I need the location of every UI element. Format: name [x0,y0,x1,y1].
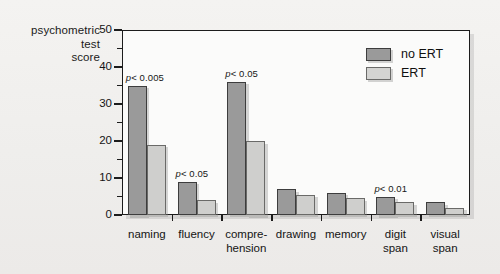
y-tick-label-10: 10 [92,171,112,183]
x-tick-mark-1 [172,215,174,221]
bar-fluency-ert [197,200,216,215]
legend-label-ert: ERT [401,65,426,82]
x-axis-label-memory: memory [321,228,371,242]
bar-fluency-no-ert [178,182,197,215]
legend: no ERT ERT [366,46,462,84]
bar-naming-ert [147,145,166,215]
x-axis-label-visual-span: visual span [420,228,470,255]
legend-swatch-ert [366,67,391,80]
bar-memory-no-ert [327,193,346,215]
p-value-annotation-fluency: p< 0.05 [176,168,209,179]
bar-visual-span-no-ert [426,202,445,215]
bar-drawing-ert [296,195,315,215]
bar-memory-ert [346,198,365,215]
y-tick-mark-20 [114,140,122,142]
x-axis-label-fluency: fluency [172,228,222,242]
x-tick-mark-4 [321,215,323,221]
bar-compre-hension-ert [246,141,265,215]
legend-item-no-ert: no ERT [366,46,462,65]
p-value-annotation-digit-span: p< 0.01 [374,183,407,194]
y-tick-label-0: 0 [92,208,112,220]
y-axis-tick-labels: 01020304050 [86,0,112,274]
legend-item-ert: ERT [366,65,462,84]
y-tick-mark-0 [114,214,122,216]
x-tick-mark-5 [371,215,373,221]
y-tick-label-30: 30 [92,97,112,109]
y-tick-mark-10 [114,177,122,179]
x-axis-label-naming: naming [122,228,172,242]
y-tick-mark-30 [114,103,122,105]
figure-chart-psychometric-test-score: psychometric test score 01020304050 nami… [0,0,500,274]
bar-naming-no-ert [128,86,147,216]
bar-digit-span-no-ert [376,197,395,216]
y-tick-label-50: 50 [92,23,112,35]
bar-digit-span-ert [395,202,414,215]
y-tick-label-40: 40 [92,60,112,72]
y-tick-mark-40 [114,66,122,68]
bar-drawing-no-ert [277,189,296,215]
x-tick-mark-6 [420,215,422,221]
y-tick-label-20: 20 [92,134,112,146]
p-value-annotation-compre-hension: p< 0.05 [225,68,258,79]
legend-label-no-ert: no ERT [401,46,443,63]
y-tick-mark-50 [114,29,122,31]
x-axis-label-digit-span: digit span [371,228,421,255]
bar-compre-hension-no-ert [227,82,246,215]
p-value-annotation-naming: p< 0.005 [126,72,164,83]
x-axis-label-compre-hension: compre- hension [221,228,271,255]
x-tick-mark-3 [271,215,273,221]
bar-visual-span-ert [445,208,464,215]
x-tick-mark-2 [221,215,223,221]
x-axis-label-drawing: drawing [271,228,321,242]
legend-swatch-no-ert [366,48,391,61]
